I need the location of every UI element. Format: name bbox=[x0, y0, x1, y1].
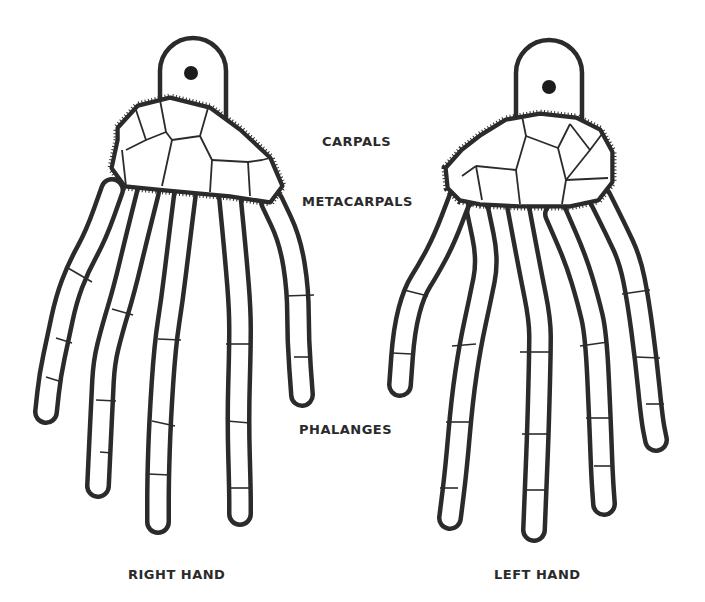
left-hand-skeleton bbox=[392, 40, 664, 530]
label-carpals: CARPALS bbox=[322, 134, 391, 149]
label-phalanges: PHALANGES bbox=[299, 422, 392, 437]
carpal-bones bbox=[112, 98, 282, 202]
right-hand-skeleton bbox=[46, 38, 314, 522]
label-left-hand: LEFT HAND bbox=[494, 567, 581, 582]
label-right-hand: RIGHT HAND bbox=[128, 567, 225, 582]
hand-skeleton-diagram bbox=[0, 0, 705, 602]
mounting-hole-icon bbox=[184, 66, 198, 80]
carpal-bones bbox=[446, 114, 612, 206]
mounting-hole-icon bbox=[542, 80, 556, 94]
label-metacarpals: METACARPALS bbox=[302, 194, 413, 209]
finger-bones bbox=[46, 190, 302, 522]
finger-bones bbox=[400, 198, 656, 530]
